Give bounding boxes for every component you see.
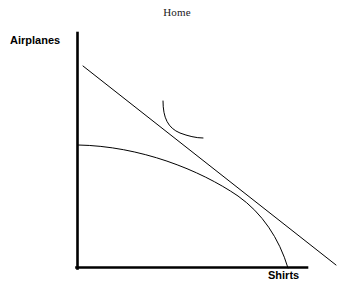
ppf-diagram-figure: Home Airplanes Shirts (0, 0, 354, 288)
y-axis-label: Airplanes (10, 34, 60, 47)
x-axis-label: Shirts (268, 269, 299, 282)
indifference-curve (163, 101, 203, 138)
curves-group (78, 66, 336, 268)
budget-line (83, 66, 336, 265)
production-possibility-frontier-curve (78, 145, 288, 268)
